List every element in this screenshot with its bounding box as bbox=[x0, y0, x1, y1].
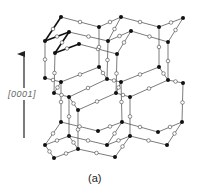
open-atom bbox=[60, 41, 64, 45]
open-atom bbox=[173, 132, 177, 136]
filled-atom bbox=[165, 143, 169, 147]
open-atom bbox=[86, 139, 90, 143]
open-atom bbox=[148, 35, 152, 39]
open-atom bbox=[106, 58, 110, 62]
filled-atom bbox=[67, 134, 71, 138]
open-atom bbox=[120, 100, 124, 104]
open-atom bbox=[147, 87, 151, 91]
filled-atom bbox=[43, 143, 47, 147]
open-atom bbox=[121, 145, 125, 149]
open-atom bbox=[122, 41, 126, 45]
open-atom bbox=[59, 100, 63, 104]
open-atom bbox=[43, 58, 47, 62]
filled-atom bbox=[156, 130, 160, 134]
open-atom bbox=[60, 93, 64, 97]
open-atom bbox=[168, 125, 172, 129]
filled-atom bbox=[59, 80, 63, 84]
filled-atom bbox=[105, 143, 109, 147]
open-atom bbox=[48, 150, 52, 154]
open-atom bbox=[51, 27, 55, 31]
filled-atom bbox=[157, 25, 161, 29]
open-atom bbox=[51, 78, 55, 82]
filled-atom bbox=[114, 91, 118, 95]
filled-atom bbox=[96, 129, 100, 133]
open-atom bbox=[157, 45, 161, 49]
highlighted-bonds bbox=[45, 17, 79, 53]
open-atom bbox=[95, 151, 99, 155]
filled-atom bbox=[106, 39, 110, 43]
open-atom bbox=[72, 102, 76, 106]
open-atom bbox=[55, 139, 59, 143]
open-atom bbox=[166, 59, 170, 63]
filled-atom bbox=[113, 155, 117, 159]
open-atom bbox=[113, 27, 117, 31]
open-atom bbox=[78, 20, 82, 24]
filled-atom bbox=[59, 15, 63, 19]
open-atom bbox=[86, 86, 90, 90]
open-atom bbox=[117, 139, 121, 143]
filled-atom bbox=[115, 52, 119, 56]
open-atom bbox=[64, 152, 68, 156]
filled-atom bbox=[52, 91, 56, 95]
filled-atom bbox=[181, 16, 185, 20]
open-atom bbox=[147, 139, 151, 143]
axis-direction-label: [0001] bbox=[8, 88, 36, 100]
open-atom bbox=[113, 132, 117, 136]
open-atom bbox=[51, 132, 55, 136]
filled-atom bbox=[119, 80, 123, 84]
open-atom bbox=[169, 21, 173, 25]
open-atom bbox=[138, 73, 142, 77]
filled-atom bbox=[166, 78, 170, 82]
filled-atom bbox=[76, 147, 80, 151]
open-atom bbox=[53, 71, 57, 75]
open-atom bbox=[174, 80, 178, 84]
open-atom bbox=[56, 86, 60, 90]
open-atom bbox=[128, 115, 132, 119]
open-atom bbox=[87, 35, 91, 39]
open-atom bbox=[95, 100, 99, 104]
open-atom bbox=[72, 141, 76, 145]
open-atom bbox=[174, 28, 178, 32]
open-atom bbox=[138, 20, 142, 24]
open-atom bbox=[101, 71, 105, 75]
filled-atom bbox=[97, 25, 101, 29]
filled-atom bbox=[53, 51, 57, 55]
filled-atom bbox=[76, 108, 80, 112]
open-atom bbox=[121, 93, 125, 97]
filled-atoms bbox=[43, 15, 185, 160]
filled-atom bbox=[128, 134, 132, 138]
open-atom bbox=[108, 125, 112, 129]
filled-atom bbox=[67, 95, 71, 99]
open-atom bbox=[162, 72, 166, 76]
open-atom bbox=[108, 20, 112, 24]
open-atom bbox=[65, 47, 69, 51]
filled-atom bbox=[128, 95, 132, 99]
filled-atom bbox=[157, 65, 161, 69]
filled-atom bbox=[181, 81, 185, 85]
open-atom bbox=[112, 79, 116, 83]
filled-atom bbox=[43, 76, 47, 80]
open-atom bbox=[67, 115, 71, 119]
filled-atom bbox=[67, 30, 71, 34]
open-atom bbox=[78, 73, 82, 77]
open-atom bbox=[118, 34, 122, 38]
open-atom bbox=[181, 101, 185, 105]
figure-caption: (a) bbox=[88, 172, 101, 184]
open-atom bbox=[78, 125, 82, 129]
open-atom bbox=[97, 45, 101, 49]
filled-atom bbox=[120, 120, 124, 124]
filled-atom bbox=[43, 39, 47, 43]
open-atom bbox=[138, 125, 142, 129]
filled-atom bbox=[119, 15, 123, 19]
open-atom bbox=[115, 72, 119, 76]
filled-atom bbox=[166, 40, 170, 44]
open-atom bbox=[117, 86, 121, 90]
filled-atom bbox=[97, 65, 101, 69]
open-atom bbox=[55, 35, 59, 39]
filled-atom bbox=[52, 156, 56, 160]
filled-atom bbox=[180, 120, 184, 124]
filled-atom bbox=[105, 77, 109, 81]
filled-atom bbox=[129, 29, 133, 33]
filled-atom bbox=[77, 42, 81, 46]
filled-atom bbox=[59, 120, 63, 124]
